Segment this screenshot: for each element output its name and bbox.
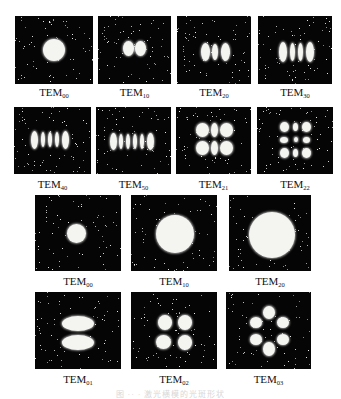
beam-lobe: [133, 134, 137, 149]
beam-lobe: [196, 141, 209, 155]
mode-panel-tem10-b: [131, 195, 217, 271]
mode-label: TEM22: [257, 178, 333, 191]
speckle-noise: [226, 292, 311, 369]
beam-petal: [277, 317, 289, 328]
beam-lobe: [110, 133, 117, 150]
beam-lobe: [126, 134, 130, 149]
beam-lobe: [196, 123, 209, 137]
beam-lobe: [290, 43, 295, 61]
beam-spot: [67, 224, 86, 243]
beam-lobe: [119, 134, 123, 149]
mode-panel-tem22: [257, 107, 333, 174]
mode-label: TEM30: [258, 86, 332, 99]
beam-lobe: [201, 43, 210, 61]
beam-petal: [250, 334, 262, 345]
beam-petal: [263, 342, 275, 356]
beam-petal: [156, 335, 171, 349]
mode-label: TEM20: [229, 275, 311, 288]
mode-label: TEM50: [96, 178, 171, 191]
beam-lobe: [303, 137, 310, 143]
beam-lobe: [302, 148, 311, 158]
beam-lobe: [140, 134, 144, 149]
beam-petal: [178, 315, 192, 330]
beam-petal: [158, 315, 172, 330]
mode-label: TEM21: [176, 178, 251, 191]
mode-label: TEM00: [35, 275, 121, 288]
beam-lobe: [147, 133, 154, 150]
beam-lobe: [302, 122, 311, 132]
mode-label: TEM02: [131, 373, 217, 386]
beam-lobe: [221, 43, 230, 61]
beam-lobe: [280, 137, 288, 143]
beam-petal: [277, 334, 289, 345]
beam-petal: [263, 306, 275, 319]
beam-lobe: [306, 42, 314, 62]
speckle-noise: [14, 107, 91, 174]
beam-petal: [250, 317, 262, 328]
mode-panel-tem20-a: [177, 16, 251, 84]
mode-label: TEM03: [226, 373, 311, 386]
figure-caption: 图 ·· · 激光横模的光斑形状: [0, 388, 341, 399]
beam-lobe: [298, 43, 303, 61]
mode-panel-tem02: [131, 292, 217, 369]
mode-label: TEM00: [15, 86, 93, 99]
mode-panel-tem21: [176, 107, 251, 174]
beam-lobe: [123, 41, 134, 56]
beam-lobe: [211, 141, 218, 155]
mode-label: TEM01: [35, 373, 121, 386]
beam-lobe: [41, 132, 45, 147]
beam-lobe: [293, 123, 298, 131]
mode-panel-tem03: [226, 292, 311, 369]
beam-petal: [178, 335, 192, 350]
beam-lobe: [280, 148, 289, 158]
beam-lobe: [211, 123, 218, 137]
mode-panel-tem01: [35, 292, 121, 369]
mode-panel-tem40: [14, 107, 91, 174]
beam-lobe: [220, 141, 233, 155]
speckle-noise: [258, 16, 332, 84]
beam-lobe: [280, 122, 289, 132]
beam-petal: [62, 335, 94, 350]
beam-lobe: [279, 42, 287, 62]
beam-petal: [62, 316, 94, 331]
beam-lobe: [62, 131, 69, 149]
beam-lobe: [48, 132, 52, 147]
mode-panel-tem30: [258, 16, 332, 84]
beam-spot: [249, 212, 295, 258]
beam-spot: [43, 39, 65, 61]
beam-spot: [156, 215, 194, 253]
beam-lobe: [31, 131, 38, 149]
beam-lobe: [212, 44, 218, 60]
mode-panel-tem50: [96, 107, 171, 174]
mode-label: TEM10: [131, 275, 217, 288]
beam-lobe: [55, 132, 59, 147]
mode-panel-tem20-b: [229, 195, 311, 271]
mode-panel-tem00-b: [35, 195, 121, 271]
beam-lobe: [294, 137, 298, 142]
beam-lobe: [135, 41, 146, 56]
mode-label: TEM20: [177, 86, 251, 99]
mode-label: TEM40: [14, 178, 91, 191]
beam-lobe: [220, 123, 233, 137]
mode-panel-tem00-a: [15, 16, 93, 84]
mode-panel-tem10-a: [98, 16, 171, 84]
speckle-noise: [131, 292, 217, 369]
mode-label: TEM10: [98, 86, 171, 99]
beam-lobe: [293, 149, 298, 157]
